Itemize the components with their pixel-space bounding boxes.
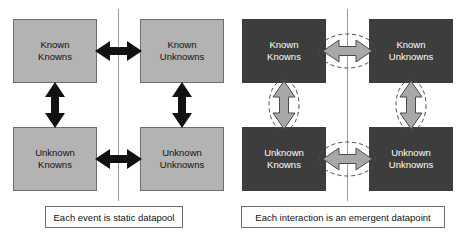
quadrant-label-line1: Known: [269, 39, 298, 51]
quadrant-label-line2: Knowns: [267, 159, 301, 171]
panel-static-datapool: Known Knowns Known Unknowns Unknown Know…: [0, 0, 228, 241]
caption-text: Each interaction is an emergent datapoin…: [255, 212, 430, 223]
quadrant-label-line2: Knowns: [38, 51, 72, 63]
quadrant-known-knowns[interactable]: Known Knowns: [242, 19, 326, 83]
quadrant-label-line2: Knowns: [38, 159, 72, 171]
quadrant-label-line1: Known: [396, 39, 425, 51]
quadrant-label-line1: Unknown: [35, 147, 75, 159]
quadrant-label-line2: Unknowns: [389, 159, 433, 171]
caption-static-datapool: Each event is static datapool: [45, 206, 183, 228]
quadrant-label-line1: Known: [40, 39, 69, 51]
quadrant-unknown-unknowns[interactable]: Unknown Unknowns: [140, 127, 224, 191]
double-arrow-left-vertical-icon: [273, 81, 295, 129]
quadrant-label-line1: Known: [167, 39, 196, 51]
highlight-ellipse-left-vertical-icon: [269, 80, 299, 130]
caption-text: Each event is static datapool: [54, 212, 175, 223]
center-divider-line: [347, 9, 348, 201]
double-arrow-left-vertical-icon: [45, 82, 65, 128]
quadrant-label-line1: Unknown: [391, 147, 431, 159]
double-arrow-right-vertical-icon: [172, 82, 192, 128]
quadrant-label-line2: Unknowns: [389, 51, 433, 63]
quadrant-known-unknowns[interactable]: Known Unknowns: [369, 19, 453, 83]
quadrant-unknown-knowns[interactable]: Unknown Knowns: [242, 127, 326, 191]
quadrant-label-line2: Knowns: [267, 51, 301, 63]
center-divider-line: [118, 9, 119, 201]
double-arrow-right-vertical-icon: [400, 81, 422, 129]
diagram-canvas: Known Knowns Known Unknowns Unknown Know…: [0, 0, 457, 241]
quadrant-known-knowns[interactable]: Known Knowns: [13, 19, 97, 83]
highlight-ellipse-right-vertical-icon: [396, 80, 426, 130]
quadrant-label-line1: Unknown: [162, 147, 202, 159]
caption-emergent-datapoint: Each interaction is an emergent datapoin…: [241, 206, 445, 228]
quadrant-label-line2: Unknowns: [160, 159, 204, 171]
quadrant-unknown-knowns[interactable]: Unknown Knowns: [13, 127, 97, 191]
quadrant-label-line1: Unknown: [264, 147, 304, 159]
quadrant-unknown-unknowns[interactable]: Unknown Unknowns: [369, 127, 453, 191]
quadrant-known-unknowns[interactable]: Known Unknowns: [140, 19, 224, 83]
quadrant-label-line2: Unknowns: [160, 51, 204, 63]
panel-emergent-datapoint: Known Knowns Known Unknowns Unknown Know…: [229, 0, 457, 241]
